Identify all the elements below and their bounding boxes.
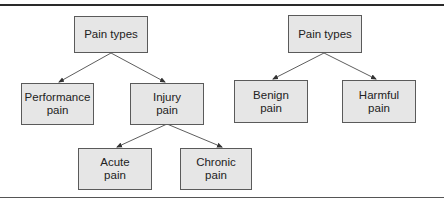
node-label: Harmful pain (359, 89, 399, 115)
edge-right-root-to-benign (273, 53, 324, 79)
node-label: Chronic pain (196, 156, 236, 182)
edge-root-to-injury (111, 53, 165, 82)
node-injury-pain: Injury pain (130, 83, 204, 125)
node-acute-pain: Acute pain (78, 148, 152, 190)
node-pain-types-right: Pain types (288, 15, 362, 53)
node-performance-pain: Performance pain (21, 83, 94, 125)
node-label: Pain types (298, 28, 352, 41)
node-pain-types-left: Pain types (74, 16, 148, 53)
node-label: Performance pain (25, 91, 91, 117)
node-label: Injury pain (153, 91, 181, 117)
top-rule (0, 4, 444, 6)
node-label: Pain types (84, 28, 138, 41)
node-chronic-pain: Chronic pain (180, 148, 252, 190)
edge-right-root-to-harmful (324, 53, 376, 79)
edge-injury-to-chronic (167, 124, 222, 147)
node-benign-pain: Benign pain (234, 80, 308, 123)
node-label: Benign pain (253, 89, 289, 115)
node-harmful-pain: Harmful pain (342, 80, 416, 123)
edge-root-to-performance (59, 53, 111, 82)
bottom-rule (0, 197, 444, 198)
edge-injury-to-acute (117, 124, 167, 147)
node-label: Acute pain (100, 156, 129, 182)
